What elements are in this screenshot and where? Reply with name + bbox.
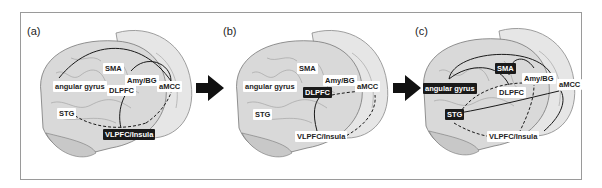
brain-illustration-c (409, 13, 583, 181)
panel-c: (c) angular gyrus SMA (409, 13, 583, 181)
region-stg: STG (57, 108, 76, 119)
region-amy-bg: Amy/BG (323, 75, 357, 86)
region-sma: SMA (495, 63, 516, 74)
region-sma: SMA (103, 63, 124, 74)
region-amy-bg: Amy/BG (522, 73, 556, 84)
region-dlpfc: DLPFC (303, 87, 332, 98)
region-angular-gyrus: angular gyrus (53, 81, 107, 92)
region-vlpfc-insula: VLPFC/Insula (295, 131, 347, 142)
region-stg: STG (253, 109, 272, 120)
region-vlpfc-insula: VLPFC/Insula (487, 131, 539, 142)
panel-a: (a) angular gyrus SMA Amy/BG (21, 13, 201, 181)
region-stg: STG (445, 109, 464, 120)
region-sma: SMA (297, 63, 318, 74)
panel-b: (b) angular gyrus SMA Amy/BG aMCC DLPFC (217, 13, 397, 181)
region-amcc: aMCC (557, 79, 582, 90)
region-vlpfc-insula: VLPFC/Insula (103, 129, 155, 140)
brain-illustration-a (21, 13, 201, 181)
region-amcc: aMCC (157, 81, 182, 92)
region-amcc: aMCC (355, 81, 380, 92)
region-dlpfc: DLPFC (497, 87, 526, 98)
region-dlpfc: DLPFC (107, 85, 136, 96)
region-angular-gyrus: angular gyrus (423, 83, 477, 94)
figure-frame: (a) angular gyrus SMA Amy/BG (20, 12, 582, 180)
region-angular-gyrus: angular gyrus (243, 81, 297, 92)
